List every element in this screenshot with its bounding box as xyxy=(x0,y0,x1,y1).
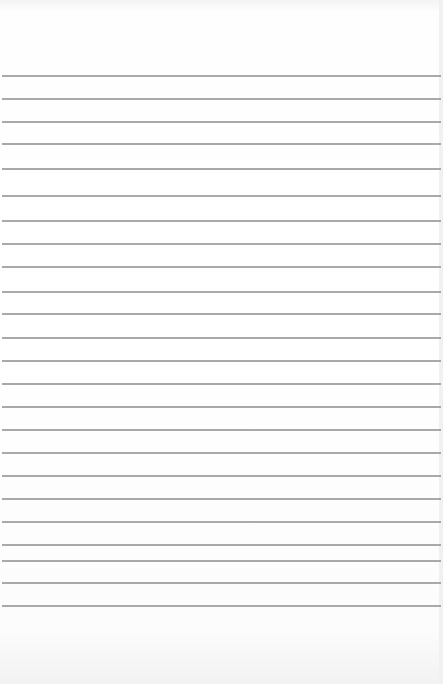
ruled-line xyxy=(2,406,441,408)
ruled-line xyxy=(2,498,441,500)
ruled-line xyxy=(2,544,441,546)
ruled-line xyxy=(2,75,441,77)
ruled-line xyxy=(2,475,441,477)
ruled-line xyxy=(2,220,441,222)
ruled-line xyxy=(2,143,441,145)
ruled-line xyxy=(2,266,441,268)
ruled-line xyxy=(2,605,441,607)
ruled-line xyxy=(2,429,441,431)
ruled-line xyxy=(2,313,441,315)
ruled-line xyxy=(2,98,441,100)
lined-paper xyxy=(0,0,443,684)
ruled-line xyxy=(2,521,441,523)
ruled-line xyxy=(2,195,441,197)
ruled-line xyxy=(2,243,441,245)
ruled-line xyxy=(2,291,441,293)
ruled-line xyxy=(2,337,441,339)
ruled-line xyxy=(2,560,441,562)
ruled-line xyxy=(2,360,441,362)
ruled-line xyxy=(2,582,441,584)
ruled-line xyxy=(2,452,441,454)
ruled-line xyxy=(2,168,441,170)
ruled-line xyxy=(2,383,441,385)
ruled-line xyxy=(2,121,441,123)
